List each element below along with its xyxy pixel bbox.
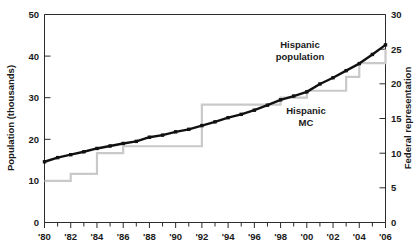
x-tick-label-98: '98 xyxy=(274,231,287,242)
data-point-1997 xyxy=(266,103,269,106)
data-point-2001 xyxy=(318,82,321,85)
data-point-2002 xyxy=(331,76,334,79)
x-tick-label-94: '94 xyxy=(222,231,236,242)
hispanic-mc-label-line2: MC xyxy=(299,117,314,128)
data-point-1985 xyxy=(108,144,111,147)
data-point-1982 xyxy=(69,153,72,156)
data-point-1996 xyxy=(253,108,256,111)
y-tick-50: 50 xyxy=(28,9,39,20)
x-tick-label-88: '88 xyxy=(143,231,156,242)
y2-axis-title: Federal representation xyxy=(402,67,413,170)
x-tick-label-00: '00 xyxy=(300,231,313,242)
data-point-2006 xyxy=(384,43,387,46)
y-tick-30: 30 xyxy=(28,92,39,103)
hispanic-population-label-line2: population xyxy=(276,51,325,62)
data-point-2003 xyxy=(344,69,347,72)
x-tick-label-02: '02 xyxy=(327,231,340,242)
data-point-2004 xyxy=(358,62,361,65)
y2-tick-0: 0 xyxy=(391,217,396,228)
x-tick-label-96: '96 xyxy=(248,231,261,242)
data-point-1991 xyxy=(187,128,190,131)
x-tick-label-04: '04 xyxy=(353,231,367,242)
x-tick-label-92: '92 xyxy=(195,231,208,242)
y-tick-20: 20 xyxy=(28,134,39,145)
x-tick-label-82: '82 xyxy=(64,231,77,242)
data-point-2005 xyxy=(371,53,374,56)
x-tick-label-90: '90 xyxy=(169,231,182,242)
hispanic-mc-label-line1: Hispanic xyxy=(286,105,326,116)
hispanic-population-label-line1: Hispanic xyxy=(280,39,320,50)
data-point-1990 xyxy=(174,130,177,133)
y2-tick-30: 30 xyxy=(391,9,402,20)
annotation-hispanic-population: Hispanic population xyxy=(276,39,325,62)
data-point-1987 xyxy=(135,140,138,143)
x-tick-label-86: '86 xyxy=(117,231,130,242)
y2-tick-20: 20 xyxy=(391,78,402,89)
data-point-1983 xyxy=(82,150,85,153)
y-tick-40: 40 xyxy=(28,51,39,62)
data-point-1995 xyxy=(240,113,243,116)
x-tick-label-80: '80 xyxy=(38,231,51,242)
x-tick-label-84: '84 xyxy=(91,231,105,242)
y2-tick-25: 25 xyxy=(391,44,402,55)
y2-tick-15: 15 xyxy=(391,113,402,124)
data-point-2000 xyxy=(305,90,308,93)
y2-tick-5: 5 xyxy=(391,182,397,193)
data-point-1986 xyxy=(121,142,124,145)
y-tick-0: 0 xyxy=(34,217,39,228)
data-point-1984 xyxy=(95,147,98,150)
data-point-1989 xyxy=(161,133,164,136)
data-point-1994 xyxy=(226,116,229,119)
data-point-1980 xyxy=(43,160,46,163)
data-point-1981 xyxy=(56,156,59,159)
y-tick-10: 10 xyxy=(28,175,39,186)
y2-tick-10: 10 xyxy=(391,148,402,159)
x-tick-label-06: '06 xyxy=(379,231,392,242)
data-point-1992 xyxy=(200,124,203,127)
data-point-1988 xyxy=(148,136,151,139)
dual-axis-line-chart: 50 40 30 20 10 0 30 25 20 15 10 5 0 xyxy=(0,0,420,250)
chart-container: 50 40 30 20 10 0 30 25 20 15 10 5 0 xyxy=(0,0,420,250)
data-point-1998 xyxy=(279,98,282,101)
chart-background xyxy=(0,0,420,250)
data-point-1999 xyxy=(292,94,295,97)
data-point-1993 xyxy=(213,120,216,123)
y-axis-title: Population (thousands) xyxy=(5,65,16,171)
